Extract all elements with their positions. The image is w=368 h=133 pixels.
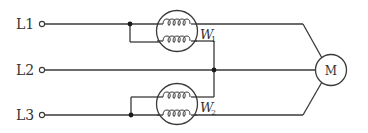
wattmeter-w2-ring — [157, 84, 198, 125]
wattmeter-w1: W 1 — [157, 11, 217, 52]
motor-label: M — [325, 64, 337, 78]
junction-dot-l3 — [129, 113, 134, 118]
line-label-l1: L1 — [16, 16, 34, 32]
w1-voltage-return — [195, 41, 214, 97]
line-label-l3: L3 — [16, 107, 34, 123]
junction-dot-l1 — [128, 22, 133, 27]
line-label-l2: L2 — [16, 62, 34, 78]
wattmeter-w2: W 2 — [157, 84, 217, 125]
wattmeter-w2-subscript: 2 — [211, 108, 216, 117]
wattmeter-w1-ring — [157, 11, 198, 52]
two-wattmeter-circuit-diagram: L1 L2 L3 W — [0, 0, 368, 133]
wattmeter-w1-subscript: 1 — [211, 35, 216, 44]
terminal-l2 — [39, 67, 44, 72]
junction-dot-l2 — [212, 68, 217, 73]
terminal-l3 — [39, 112, 44, 117]
motor: M — [316, 55, 347, 86]
terminal-l1 — [39, 21, 44, 26]
